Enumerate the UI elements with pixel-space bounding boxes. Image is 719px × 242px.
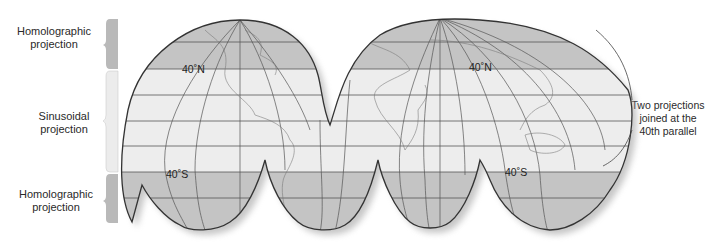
south-homolographic-band xyxy=(100,172,660,242)
brace-top xyxy=(103,19,118,69)
lat-label-40n-east: 40˚N xyxy=(469,61,492,73)
lat-label-40n-west: 40˚N xyxy=(182,63,205,75)
brace-bottom xyxy=(103,174,118,223)
goode-homolosine-map: 40˚N 40˚N 40˚S 40˚S xyxy=(0,0,719,242)
brace-middle xyxy=(103,71,118,172)
lat-label-40s-east: 40˚S xyxy=(505,166,527,178)
lat-label-40s-west: 40˚S xyxy=(166,168,188,180)
map-body xyxy=(100,0,660,242)
